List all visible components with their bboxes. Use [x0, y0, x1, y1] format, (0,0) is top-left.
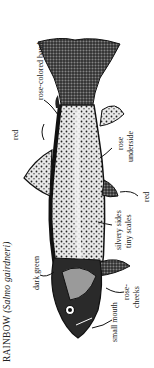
label-dark-green: dark green — [32, 256, 41, 290]
label-rose-underside-2: underside — [126, 131, 135, 162]
figure-title: RAINBOW (Salmo gairdneri) — [3, 241, 12, 362]
label-small-mouth: small mouth — [110, 302, 119, 342]
title-common: RAINBOW — [2, 315, 12, 362]
tail-fin — [38, 38, 120, 110]
label-tiny-scales: tiny scales — [124, 214, 133, 248]
label-rose-colored-band: rose-colored band — [36, 42, 45, 100]
trout-illustration — [0, 0, 154, 368]
label-rose-cheeks-1: rose- — [122, 284, 131, 300]
label-red-ventral: red — [142, 192, 151, 202]
dorsal-fin — [24, 150, 52, 196]
label-rose-underside-1: rose — [116, 137, 125, 150]
label-red-dorsal: red — [11, 130, 20, 140]
title-scientific: (Salmo gairdneri) — [2, 241, 12, 312]
label-rose-cheeks-2: cheeks — [132, 286, 141, 308]
label-silvery-sides: silvery sides — [114, 210, 123, 250]
